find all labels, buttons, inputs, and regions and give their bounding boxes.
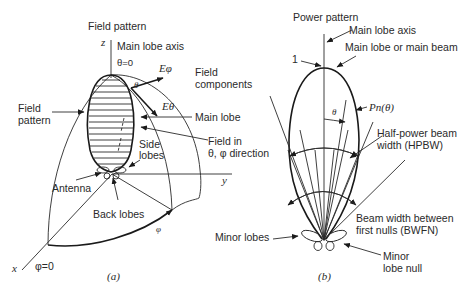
phi-label: φ: [156, 224, 161, 234]
panel-a-caption: (a): [107, 270, 120, 283]
panel-a-title: Field pattern: [88, 20, 147, 32]
hpbw-label-1: Half-power beam: [377, 127, 457, 139]
minor-lobe-null-label-1: Minor: [383, 250, 410, 262]
bwfn-label-1: Beam width between: [356, 212, 454, 224]
theta-label-b: θ: [332, 107, 337, 117]
e-theta-vector: [131, 88, 157, 116]
theta-label: θ: [134, 80, 139, 90]
e-theta-label: Eθ: [161, 100, 175, 112]
panel-b-caption: (b): [318, 270, 331, 283]
field-components-label-2: components: [195, 78, 252, 90]
field-pattern-label-2: pattern: [18, 114, 51, 126]
theta-zero-label: θ=0: [117, 57, 133, 68]
x-axis-label: x: [11, 262, 17, 274]
back-lobes-label: Back lobes: [93, 208, 144, 220]
side-lobes-label-2: lobes: [139, 149, 164, 161]
y-axis-label: y: [221, 174, 227, 186]
main-lobe-axis-label-b: Main lobe axis: [349, 24, 416, 36]
phi-direction-line: [112, 174, 172, 210]
field-in-label-2: θ, φ direction: [208, 147, 269, 159]
main-lobe-label: Main lobe: [195, 111, 241, 123]
field-components-label-1: Field: [195, 66, 218, 78]
main-lobe-or-beam-label: Main lobe or main beam: [345, 41, 458, 53]
main-lobe-3d: [88, 75, 134, 172]
panel-a-field-pattern: Field pattern z Main lobe axis θ=0 Eφ Eθ…: [11, 20, 269, 283]
field-in-label-1: Field in: [208, 135, 242, 147]
antenna-radiation-pattern-figure: Field pattern z Main lobe axis θ=0 Eφ Eθ…: [0, 0, 465, 303]
main-lobe-axis-label: Main lobe axis: [117, 40, 184, 52]
peak-value-label: 1: [292, 53, 298, 65]
e-phi-label: Eφ: [158, 62, 172, 74]
panel-b-title: Power pattern: [293, 11, 359, 23]
antenna-label: Antenna: [52, 182, 91, 194]
pn-theta-label: Pn(θ): [368, 101, 394, 114]
z-axis-label: z: [100, 36, 106, 48]
bwfn-label-2: first nulls (BWFN): [356, 224, 438, 236]
theta-arc: [324, 119, 345, 122]
field-pattern-label-1: Field: [18, 102, 41, 114]
minor-lobe-null-label-2: lobe null: [383, 262, 422, 274]
minor-lobes-label: Minor lobes: [215, 231, 269, 243]
main-lobe-hatching: [89, 80, 133, 164]
phi-zero-label: φ=0: [35, 260, 54, 272]
hpbw-label-2: width (HPBW): [376, 139, 443, 151]
